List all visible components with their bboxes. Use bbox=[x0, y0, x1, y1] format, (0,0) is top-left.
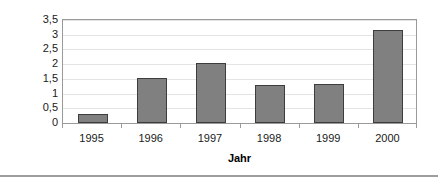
x-axis-tick-label: 1995 bbox=[63, 131, 121, 145]
bar-1996 bbox=[137, 78, 167, 123]
y-axis-tick-label: 1,5 bbox=[30, 73, 58, 84]
x-axis-tick-label: 1998 bbox=[240, 131, 298, 145]
x-axis-title: Jahr bbox=[62, 152, 417, 164]
bar-1998 bbox=[255, 85, 285, 123]
x-axis-tick-mark bbox=[62, 124, 63, 128]
x-axis-tick-labels: 199519961997199819992000 bbox=[62, 131, 417, 147]
y-axis-tick-label: 1 bbox=[30, 88, 58, 99]
y-axis-tick-label: 0,5 bbox=[30, 102, 58, 113]
x-axis-tick-label: 1996 bbox=[122, 131, 180, 145]
y-axis-tick-label: 3,5 bbox=[30, 14, 58, 25]
y-axis-tick-label: 2,5 bbox=[30, 43, 58, 54]
x-axis-tick-mark bbox=[121, 124, 122, 128]
x-axis-tick-marks bbox=[62, 124, 417, 129]
y-axis-tick-label: 0 bbox=[30, 117, 58, 128]
x-axis-tick-label: 1999 bbox=[299, 131, 357, 145]
plot-area bbox=[62, 19, 417, 124]
bars-group bbox=[63, 20, 416, 123]
x-axis-tick-mark bbox=[180, 124, 181, 128]
bar-chart-figure: PIPEs in Mrd. US$ 00,511,522,533,5 19951… bbox=[0, 0, 438, 184]
x-axis-tick-mark bbox=[299, 124, 300, 128]
x-axis-tick-mark bbox=[240, 124, 241, 128]
x-axis-tick-label: 2000 bbox=[358, 131, 416, 145]
y-axis-tick-label: 3 bbox=[30, 29, 58, 40]
y-axis-tick-labels: 00,511,522,533,5 bbox=[30, 20, 58, 123]
bar-1999 bbox=[314, 84, 344, 123]
x-axis-tick-mark bbox=[358, 124, 359, 128]
bottom-divider bbox=[0, 175, 438, 177]
bar-1995 bbox=[78, 114, 108, 123]
x-axis-tick-mark bbox=[416, 124, 417, 128]
bar-1997 bbox=[196, 63, 226, 123]
bar-2000 bbox=[373, 30, 403, 123]
y-axis-tick-label: 2 bbox=[30, 58, 58, 69]
x-axis-tick-label: 1997 bbox=[181, 131, 239, 145]
